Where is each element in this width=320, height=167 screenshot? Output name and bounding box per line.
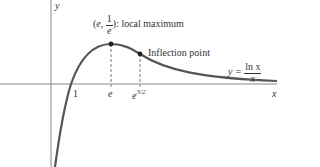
local-max-point: [109, 42, 114, 47]
tick-label-1: 1: [73, 89, 78, 99]
y-axis-label: y: [55, 1, 59, 11]
tick-label-e: e: [108, 89, 112, 99]
equation-label: y = ln xx: [228, 62, 261, 84]
tick-label-e32: e3/2: [132, 89, 145, 101]
x-axis-label: x: [272, 89, 276, 99]
local-max-label: (e, 1e): local maximum: [93, 14, 184, 36]
inflection-point-marker: [138, 52, 143, 57]
inflection-label: Inflection point: [148, 48, 210, 58]
